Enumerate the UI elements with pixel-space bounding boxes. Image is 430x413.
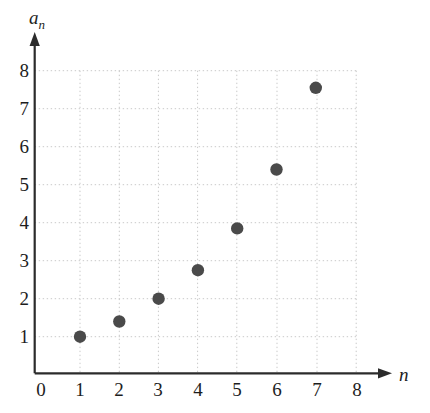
y-tick-label-4: 4 <box>7 213 29 232</box>
grid-vertical <box>80 71 356 374</box>
x-tick-label-4: 4 <box>187 380 209 399</box>
data-point <box>113 315 125 327</box>
y-tick-label-2: 2 <box>7 289 29 308</box>
y-axis-arrowhead <box>30 32 40 46</box>
data-point <box>310 82 322 94</box>
grid-horizontal <box>35 71 357 337</box>
y-tick-label-8: 8 <box>7 61 29 80</box>
axis-lines <box>35 40 384 373</box>
y-tick-label-5: 5 <box>7 175 29 194</box>
y-tick-label-7: 7 <box>7 99 29 118</box>
x-tick-label-1: 1 <box>69 380 91 399</box>
x-tick-label-2: 2 <box>108 380 130 399</box>
y-axis-label-subscript: n <box>39 17 46 32</box>
data-point <box>270 163 282 175</box>
x-axis-label: n <box>399 365 409 384</box>
x-tick-label-8: 8 <box>346 380 368 399</box>
scatter-plot-figure: 8 7 6 5 4 3 2 1 0 1 2 3 4 5 6 7 8 an n <box>0 0 430 413</box>
x-tick-label-5: 5 <box>226 380 248 399</box>
chart-canvas <box>0 0 430 413</box>
data-point <box>74 331 86 343</box>
y-tick-label-3: 3 <box>7 251 29 270</box>
x-tick-label-6: 6 <box>266 380 288 399</box>
data-point <box>192 264 204 276</box>
x-tick-label-0: 0 <box>30 380 52 399</box>
y-axis-label-base: a <box>29 7 39 28</box>
y-axis-label: an <box>29 8 45 31</box>
y-tick-label-1: 1 <box>7 327 29 346</box>
y-tick-label-6: 6 <box>7 137 29 156</box>
data-point <box>152 293 164 305</box>
x-tick-label-3: 3 <box>147 380 169 399</box>
x-axis-arrowhead <box>378 368 392 378</box>
x-tick-label-7: 7 <box>306 380 328 399</box>
data-point <box>231 222 243 234</box>
